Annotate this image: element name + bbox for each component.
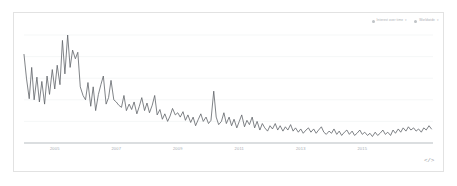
trends-chart-card: Interest over time▾Worldwide▾ 2005200720… [13, 12, 444, 172]
x-axis-tick-labels: 200520072009201120132015 [24, 146, 433, 156]
chart-legend: Interest over time▾Worldwide▾ [372, 15, 439, 27]
x-axis-tick-2013: 2013 [296, 146, 306, 152]
line-chart-svg [24, 35, 433, 143]
chart-screenshot: Interest over time▾Worldwide▾ 2005200720… [0, 0, 457, 186]
legend-swatch-icon [372, 20, 375, 23]
chart-plot-area[interactable] [24, 35, 433, 143]
x-axis-tick-2015: 2015 [357, 146, 367, 152]
x-axis-tick-2005: 2005 [50, 146, 60, 152]
x-axis-tick-2007: 2007 [111, 146, 121, 152]
legend-chip-region[interactable]: Worldwide▾ [414, 19, 439, 23]
grid-lines [24, 35, 433, 121]
embed-code-icon[interactable]: </> [423, 154, 435, 166]
legend-label: Worldwide [419, 19, 435, 23]
legend-label: Interest over time [377, 19, 403, 23]
chevron-down-icon[interactable]: ▾ [437, 19, 439, 23]
chevron-down-icon[interactable]: ▾ [405, 19, 407, 23]
legend-swatch-icon [414, 20, 417, 23]
x-axis-tick-2009: 2009 [173, 146, 183, 152]
legend-chip-interest-over-time[interactable]: Interest over time▾ [372, 19, 408, 23]
x-axis-tick-2011: 2011 [235, 146, 244, 152]
